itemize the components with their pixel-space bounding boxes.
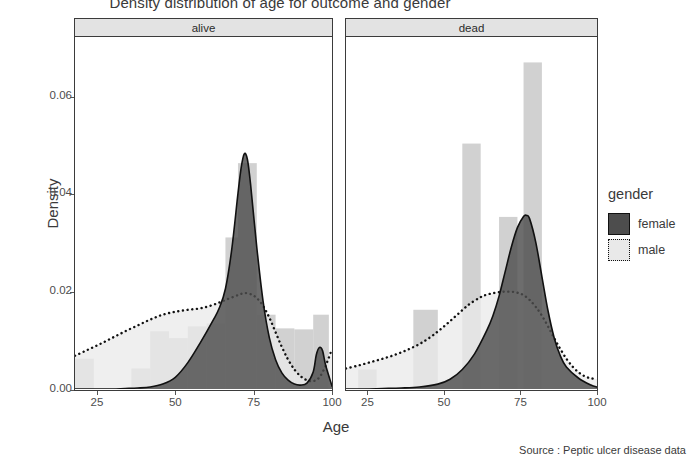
x-tick-label: 25 (77, 396, 117, 408)
panel-strip-dead: dead (345, 18, 598, 37)
plot-area-dead (345, 37, 598, 391)
x-tick-label: 75 (234, 396, 274, 408)
legend-item-female[interactable]: female (608, 211, 692, 237)
x-tick-mark (444, 391, 445, 395)
x-tick-label: 100 (577, 396, 617, 408)
y-axis-ticks: 0.000.020.040.06 (20, 0, 72, 462)
x-tick-mark (332, 391, 333, 395)
legend-title: gender (608, 186, 692, 202)
x-tick-mark (520, 391, 521, 395)
panel-strip-label: dead (459, 22, 485, 34)
x-tick-label: 50 (155, 396, 195, 408)
legend-item-male[interactable]: male (608, 237, 692, 263)
plot-area-alive (74, 37, 333, 391)
x-axis-ticks-dead: 255075100 (345, 391, 598, 407)
x-tick-mark (597, 391, 598, 395)
panel-strip-label: alive (192, 22, 216, 34)
panel-dead: dead 255075100 (345, 18, 598, 391)
y-tick-label: 0.00 (26, 382, 72, 394)
chart-title: Density distribution of age for outcome … (0, 0, 560, 11)
x-tick-label: 25 (347, 396, 387, 408)
figure: Density distribution of age for outcome … (0, 0, 692, 462)
x-tick-mark (367, 391, 368, 395)
x-tick-mark (254, 391, 255, 395)
y-tick-label: 0.06 (26, 89, 72, 101)
y-tick-label: 0.02 (26, 284, 72, 296)
panel-alive: alive 255075100 (74, 18, 333, 391)
x-axis-label: Age (74, 418, 598, 435)
legend-key-female-swatch (608, 213, 630, 235)
legend: gender female male (608, 186, 692, 263)
x-tick-label: 75 (500, 396, 540, 408)
legend-label-female: female (638, 217, 676, 231)
y-tick-label: 0.04 (26, 186, 72, 198)
x-tick-label: 50 (424, 396, 464, 408)
x-tick-mark (175, 391, 176, 395)
legend-key-male-swatch (608, 239, 630, 261)
x-tick-mark (97, 391, 98, 395)
panel-strip-alive: alive (74, 18, 333, 37)
legend-label-male: male (638, 243, 665, 257)
source-caption: Source : Peptic ulcer disease data (519, 444, 686, 456)
x-axis-ticks-alive: 255075100 (74, 391, 333, 407)
